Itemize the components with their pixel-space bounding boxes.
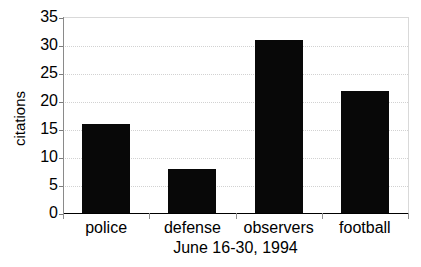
y-axis-tick-label: 35 <box>20 9 58 25</box>
x-axis-tick-mark <box>408 213 409 219</box>
y-axis-tick-labels: 05101520253035 <box>20 10 58 220</box>
x-axis-tick-label: defense <box>149 219 235 237</box>
x-axis-tick-label: football <box>322 219 408 237</box>
y-axis-tick-label: 0 <box>20 205 58 221</box>
y-axis-tick-label: 25 <box>20 65 58 81</box>
y-axis-tick-label: 20 <box>20 93 58 109</box>
gridline <box>63 74 408 75</box>
bar-chart-figure: citations 05101520253035 policedefenseob… <box>0 0 421 267</box>
x-axis-tick-mark <box>149 213 150 219</box>
x-axis-tick-mark <box>322 213 323 219</box>
x-axis-tick-mark <box>236 213 237 219</box>
plot-area <box>63 17 409 214</box>
y-axis-tick-label: 10 <box>20 149 58 165</box>
y-axis-tick-label: 5 <box>20 177 58 193</box>
y-axis-spine <box>63 17 64 214</box>
x-axis-title: June 16-30, 1994 <box>63 239 408 257</box>
bar <box>82 124 130 214</box>
x-axis-tick-label: observers <box>236 219 322 237</box>
bar <box>255 40 303 214</box>
y-axis-tick-label: 30 <box>20 37 58 53</box>
y-axis-tick-label: 15 <box>20 121 58 137</box>
x-axis-tick-mark <box>63 213 64 219</box>
bar <box>341 91 389 214</box>
bar <box>168 169 216 214</box>
gridline <box>63 46 408 47</box>
x-axis-tick-label: police <box>63 219 149 237</box>
